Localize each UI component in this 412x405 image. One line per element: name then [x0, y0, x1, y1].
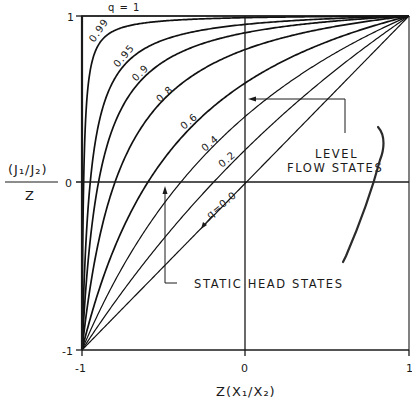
x-tick-label-minus1: -1 — [75, 362, 86, 375]
x-tick-label-0: 0 — [241, 362, 248, 375]
y-tick-label-1: 1 — [67, 11, 74, 24]
curve-label-02: 0.2 — [216, 149, 238, 170]
level-label: LEVEL — [315, 147, 358, 161]
level-flow-annotation: LEVEL FLOW STATES — [248, 97, 383, 176]
flow-states-label: FLOW STATES — [287, 161, 383, 175]
curve-label-08: 0.8 — [154, 84, 175, 105]
curve-label-099: 0.99 — [87, 16, 111, 44]
curve-label-09: 0.9 — [130, 62, 151, 83]
y-tick-label-minus1: -1 — [62, 345, 73, 358]
curve-label-q0: q=0.0 — [204, 189, 238, 220]
static-head-arrowhead — [163, 186, 168, 194]
chart-svg: 1 0 -1 -1 0 1 (J₁/J₂) Z Z(X₁/X₂) q = 1 0… — [0, 0, 412, 405]
level-flow-arrowhead — [248, 97, 256, 102]
y-axis-title-numerator: (J₁/J₂) — [8, 162, 48, 177]
x-axis-title: Z(X₁/X₂) — [216, 384, 276, 399]
curve-label-q1: q = 1 — [108, 2, 140, 13]
y-tick-label-0: 0 — [65, 177, 72, 190]
y-axis-title-denominator: Z — [25, 188, 35, 203]
chart: 1 0 -1 -1 0 1 (J₁/J₂) Z Z(X₁/X₂) q = 1 0… — [0, 0, 412, 405]
static-head-annotation: STATIC HEAD STATES — [163, 186, 344, 291]
static-head-label: STATIC HEAD STATES — [194, 277, 344, 291]
curve-label-04: 0.4 — [199, 133, 221, 154]
x-tick-label-1: 1 — [406, 362, 412, 375]
